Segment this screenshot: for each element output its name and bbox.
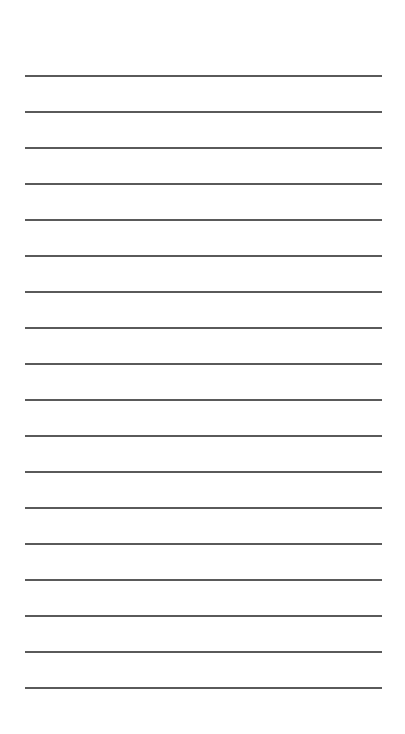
ruled-line	[25, 579, 382, 581]
ruled-line	[25, 435, 382, 437]
ruled-line	[25, 255, 382, 257]
ruled-line	[25, 183, 382, 185]
ruled-line	[25, 291, 382, 293]
ruled-line	[25, 399, 382, 401]
ruled-line	[25, 147, 382, 149]
ruled-line	[25, 327, 382, 329]
ruled-line	[25, 651, 382, 653]
ruled-line	[25, 471, 382, 473]
ruled-line	[25, 75, 382, 77]
ruled-line	[25, 543, 382, 545]
ruled-line	[25, 219, 382, 221]
ruled-line	[25, 363, 382, 365]
ruled-line	[25, 615, 382, 617]
ruled-line	[25, 507, 382, 509]
ruled-line	[25, 687, 382, 689]
ruled-line	[25, 111, 382, 113]
